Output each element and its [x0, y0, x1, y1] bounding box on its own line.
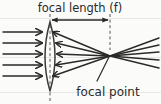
focal-point-label: focal point [76, 85, 140, 99]
diagram-canvas: focal length (f) focal point [0, 0, 161, 104]
focal-length-diagram: focal length (f) focal point [0, 0, 161, 104]
focal-length-label: focal length (f) [38, 1, 123, 15]
